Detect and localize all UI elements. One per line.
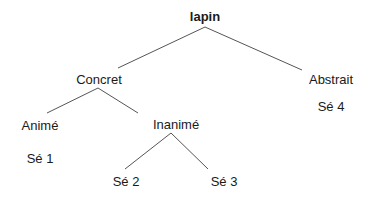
node-se2: Sé 2 xyxy=(113,175,140,189)
edge-inanime-se2 xyxy=(125,133,171,169)
edge-concret-anime xyxy=(47,88,98,113)
node-concret: Concret xyxy=(76,73,122,87)
edge-inanime-se3 xyxy=(171,133,208,169)
node-se4: Sé 4 xyxy=(318,100,345,114)
node-se1: Sé 1 xyxy=(27,152,54,166)
node-lapin: lapin xyxy=(190,10,220,24)
node-anime: Animé xyxy=(22,119,59,133)
node-inanime: Inanimé xyxy=(153,118,199,132)
edge-concret-inanime xyxy=(98,88,138,113)
edge-lapin-concret xyxy=(118,27,205,68)
node-se3: Sé 3 xyxy=(211,175,238,189)
edge-lapin-abstrait xyxy=(205,27,302,70)
node-abstrait: Abstrait xyxy=(309,73,353,87)
